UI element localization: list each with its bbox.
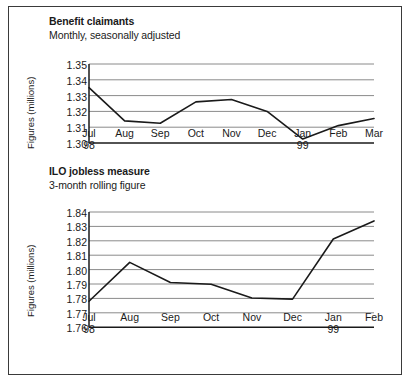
y-tick-label: 1.83 [51, 222, 87, 233]
chart-title-ilo-jobless-measure: ILO jobless measure [49, 165, 150, 177]
y-tick-label: 1.84 [51, 208, 87, 219]
x-tick-month: Feb [329, 127, 347, 139]
chart-subtitle-ilo-jobless-measure: 3-month rolling figure [49, 179, 145, 191]
x-tick-label: Sep [150, 311, 190, 323]
x-tick-label: Jan 99 [283, 127, 323, 151]
x-tick-month: Aug [115, 127, 134, 139]
x-tick-month: Jul [82, 127, 95, 139]
x-tick-label: Oct [191, 311, 231, 323]
y-tick-label: 1.81 [51, 251, 87, 262]
x-tick-label: Nov [232, 311, 272, 323]
y-tick-label: 1.34 [51, 76, 87, 87]
x-tick-label: Jul 98 [69, 311, 109, 335]
x-tick-month: Nov [243, 311, 262, 323]
x-tick-month: Oct [188, 127, 204, 139]
y-axis-label-benefit-claimants: Figures (millions) [25, 77, 36, 149]
x-tick-month: Sep [161, 311, 180, 323]
y-tick-label: 1.79 [51, 280, 87, 291]
y-tick-label: 1.80 [51, 266, 87, 277]
x-tick-label: Jul 98 [69, 127, 109, 151]
gridlines-ilo-jobless-measure [89, 212, 374, 313]
x-tick-month: Jan [294, 127, 311, 139]
chart-title-benefit-claimants: Benefit claimants [49, 15, 134, 27]
x-tick-label: Mar [354, 127, 394, 139]
x-tick-month: Feb [365, 311, 383, 323]
data-series-line-ilo-jobless-measure [89, 221, 374, 301]
plot-area-ilo-jobless-measure: Figures (millions) 1.84 1.83 1.82 1.81 1… [9, 195, 403, 345]
x-tick-month: Jan [325, 311, 342, 323]
x-tick-month: Sep [151, 127, 170, 139]
x-tick-year: 98 [69, 139, 109, 151]
x-tick-year: 99 [283, 139, 323, 151]
x-tick-month: Dec [258, 127, 277, 139]
y-tick-label: 1.35 [51, 60, 87, 71]
plot-area-benefit-claimants: Figures (millions) 1.35 1.34 1.33 1.32 1… [9, 45, 403, 155]
y-tick-label: 1.78 [51, 294, 87, 305]
x-tick-label: Oct [176, 127, 216, 139]
x-tick-month: Oct [203, 311, 219, 323]
x-tick-month: Jul [82, 311, 95, 323]
y-tick-label: 1.82 [51, 237, 87, 248]
x-tick-label: Aug [105, 127, 145, 139]
x-tick-label: Aug [110, 311, 150, 323]
x-tick-label: Sep [140, 127, 180, 139]
x-tick-label: Dec [273, 311, 313, 323]
x-tick-year: 99 [313, 323, 353, 335]
figure-frame: Benefit claimants Monthly, seasonally ad… [8, 6, 402, 375]
x-tick-month: Dec [283, 311, 302, 323]
x-tick-label: Feb [318, 127, 358, 139]
x-tick-month: Aug [120, 311, 139, 323]
x-tick-label: Nov [212, 127, 252, 139]
x-tick-year: 98 [69, 323, 109, 335]
y-axis-label-ilo-jobless-measure: Figures (millions) [25, 245, 36, 317]
x-tick-label: Jan 99 [313, 311, 353, 335]
chart-subtitle-benefit-claimants: Monthly, seasonally adjusted [49, 29, 180, 41]
y-tick-label: 1.32 [51, 107, 87, 118]
x-tick-label: Dec [247, 127, 287, 139]
x-tick-label: Feb [354, 311, 394, 323]
x-tick-month: Nov [222, 127, 241, 139]
gridlines-benefit-claimants [89, 64, 374, 127]
y-tick-label: 1.33 [51, 92, 87, 103]
x-tick-month: Mar [365, 127, 383, 139]
